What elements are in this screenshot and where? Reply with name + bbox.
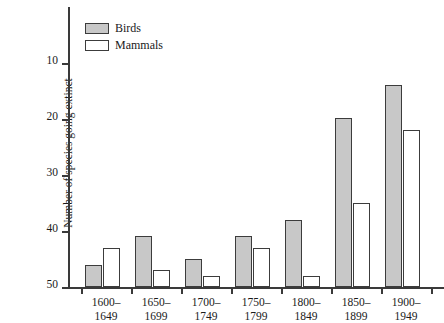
legend-label-birds: Birds bbox=[115, 21, 141, 36]
legend-swatch-birds-icon bbox=[85, 23, 109, 34]
x-axis-group-label-0-line-1: 1649 bbox=[81, 310, 131, 323]
bar-birds-3 bbox=[235, 236, 252, 287]
bar-mammals-6 bbox=[403, 130, 420, 287]
bar-mammals-3 bbox=[253, 248, 270, 287]
y-tick-20: 20 bbox=[62, 119, 68, 121]
legend: Birds Mammals bbox=[85, 21, 163, 55]
x-tick-7 bbox=[431, 288, 433, 294]
bar-birds-5 bbox=[335, 118, 352, 287]
x-tick-4 bbox=[281, 288, 283, 294]
x-axis-group-label-3-line-0: 1750– bbox=[231, 296, 281, 310]
x-axis-group-label-0-line-0: 1600– bbox=[81, 296, 131, 310]
x-axis-group-label-1-line-1: 1699 bbox=[131, 310, 181, 323]
x-axis-group-label-5-line-1: 1899 bbox=[331, 310, 381, 323]
x-axis-group-label-3: 1750–1799 bbox=[231, 296, 281, 323]
x-axis-group-label-3-line-1: 1799 bbox=[231, 310, 281, 323]
y-tick-label-50: 50 bbox=[47, 278, 59, 290]
bar-birds-6 bbox=[385, 85, 402, 287]
x-axis-line bbox=[68, 287, 444, 289]
y-tick-30: 30 bbox=[62, 175, 68, 177]
y-tick-label-20: 20 bbox=[47, 110, 59, 122]
x-axis-group-label-6: 1900–1949 bbox=[381, 296, 431, 323]
legend-label-mammals: Mammals bbox=[115, 38, 163, 53]
x-axis-group-label-5: 1850–1899 bbox=[331, 296, 381, 323]
page-caption-fragment: s t r- 0 son bbox=[0, 205, 16, 300]
x-tick-3 bbox=[231, 288, 233, 294]
x-tick-1 bbox=[131, 288, 133, 294]
bar-birds-0 bbox=[85, 265, 102, 287]
x-axis-group-label-4-line-0: 1800– bbox=[281, 296, 331, 310]
legend-item-birds: Birds bbox=[85, 21, 163, 36]
x-axis-group-label-4: 1800–1849 bbox=[281, 296, 331, 323]
x-axis-group-label-1: 1650–1699 bbox=[131, 296, 181, 323]
y-tick-label-10: 10 bbox=[47, 54, 59, 66]
x-axis-group-label-2-line-0: 1700– bbox=[181, 296, 231, 310]
bar-mammals-1 bbox=[153, 270, 170, 287]
y-tick-10: 10 bbox=[62, 63, 68, 65]
x-axis-group-label-6-line-0: 1900– bbox=[381, 296, 431, 310]
bar-birds-1 bbox=[135, 236, 152, 287]
bar-mammals-2 bbox=[203, 276, 220, 287]
legend-swatch-mammals-icon bbox=[85, 40, 109, 51]
x-axis-group-label-2: 1700–1749 bbox=[181, 296, 231, 323]
legend-item-mammals: Mammals bbox=[85, 38, 163, 53]
x-axis-group-label-0: 1600–1649 bbox=[81, 296, 131, 323]
x-axis-group-label-6-line-1: 1949 bbox=[381, 310, 431, 323]
bar-mammals-5 bbox=[353, 203, 370, 287]
x-tick-6 bbox=[381, 288, 383, 294]
x-axis-group-label-4-line-1: 1849 bbox=[281, 310, 331, 323]
bar-birds-2 bbox=[185, 259, 202, 287]
x-tick-0 bbox=[81, 288, 83, 294]
x-tick-2 bbox=[181, 288, 183, 294]
y-axis-line bbox=[68, 7, 70, 288]
bar-mammals-0 bbox=[103, 248, 120, 287]
bar-birds-4 bbox=[285, 220, 302, 287]
y-tick-label-40: 40 bbox=[47, 222, 59, 234]
bar-mammals-4 bbox=[303, 276, 320, 287]
x-tick-5 bbox=[331, 288, 333, 294]
x-axis-group-label-2-line-1: 1749 bbox=[181, 310, 231, 323]
y-tick-50: 50 bbox=[62, 287, 68, 289]
y-tick-40: 40 bbox=[62, 231, 68, 233]
y-tick-label-30: 30 bbox=[47, 166, 59, 178]
x-axis-group-label-1-line-0: 1650– bbox=[131, 296, 181, 310]
x-axis-group-label-5-line-0: 1850– bbox=[331, 296, 381, 310]
